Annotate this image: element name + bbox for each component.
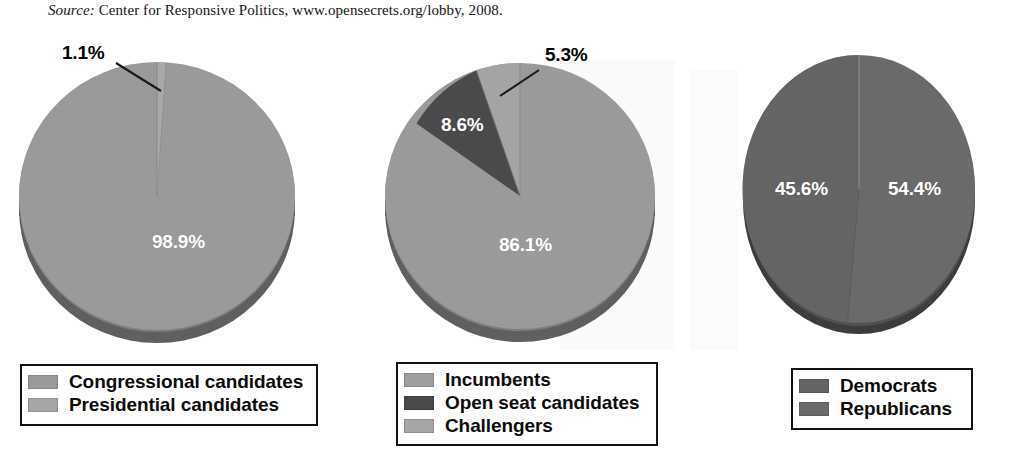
source-caption: Source: Center for Responsive Politics, … (48, 2, 503, 19)
chart-panel-party: 45.6% 54.4% (742, 52, 1002, 352)
legend-party: Democrats Republicans (791, 368, 973, 430)
slice-label-congressional: 98.9% (152, 231, 205, 253)
slice-label-republicans: 54.4% (888, 178, 941, 200)
chart-panel-candidate-status: 5.3% 8.6% 86.1% (384, 46, 704, 356)
chart-panel-candidate-type: 1.1% 98.9% (18, 46, 338, 356)
legend-swatch-icon (28, 375, 58, 389)
legend-item-congressional-candidates[interactable]: Congressional candidates (28, 370, 306, 393)
source-label: Source: (48, 2, 95, 18)
legend-item-incumbents[interactable]: Incumbents (404, 368, 646, 391)
legend-swatch-icon (404, 419, 434, 433)
legend-label: Challengers (445, 415, 553, 436)
legend-label: Republicans (840, 398, 952, 419)
legend-item-republicans[interactable]: Republicans (799, 397, 961, 420)
slice-label-incumbents: 86.1% (499, 234, 552, 256)
legend-item-presidential-candidates[interactable]: Presidential candidates (28, 393, 306, 416)
legend-label: Open seat candidates (445, 392, 639, 413)
legend-candidate-type: Congressional candidates Presidential ca… (20, 364, 318, 426)
source-text: Center for Responsive Politics, www.open… (99, 2, 503, 18)
legend-label: Democrats (840, 375, 937, 396)
pie-chart-candidate-type (18, 46, 318, 346)
legend-item-challengers[interactable]: Challengers (404, 414, 646, 437)
callout-label-presidential: 1.1% (62, 42, 105, 64)
legend-swatch-icon (799, 379, 829, 393)
legend-swatch-icon (404, 373, 434, 387)
legend-label: Incumbents (445, 369, 551, 390)
legend-label: Presidential candidates (69, 394, 279, 415)
slice-label-democrats: 45.6% (775, 178, 828, 200)
callout-label-challengers: 5.3% (545, 44, 588, 66)
legend-label: Congressional candidates (69, 371, 303, 392)
legend-swatch-icon (799, 402, 829, 416)
legend-item-open-seat-candidates[interactable]: Open seat candidates (404, 391, 646, 414)
pie-chart-candidate-status (384, 46, 684, 346)
legend-candidate-status: Incumbents Open seat candidates Challeng… (396, 362, 658, 446)
slice-label-open-seat-candidates: 8.6% (441, 114, 484, 136)
legend-item-democrats[interactable]: Democrats (799, 374, 961, 397)
legend-swatch-icon (404, 396, 434, 410)
legend-swatch-icon (28, 398, 58, 412)
